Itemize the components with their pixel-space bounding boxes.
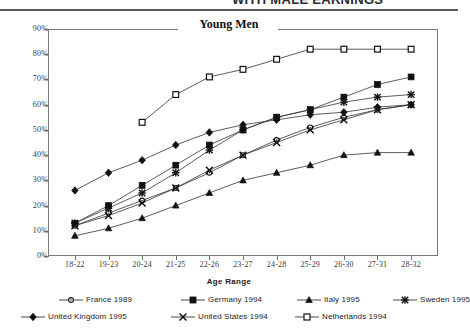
- data-point-open-square: [173, 92, 179, 98]
- data-point-filled-square: [190, 297, 196, 303]
- data-point-filled-diamond: [105, 169, 112, 177]
- legend-marker-asterisk-icon: [392, 294, 418, 306]
- legend-row: United Kingdom 1995United States 1994Net…: [10, 309, 458, 324]
- data-point-open-circle: [69, 297, 74, 302]
- data-point-filled-square: [139, 182, 145, 188]
- legend-label: United States 1994: [198, 311, 268, 323]
- chart-title: Young Men: [0, 17, 458, 32]
- data-point-asterisk: [374, 93, 382, 101]
- legend-marker-filled-square-icon: [180, 294, 206, 306]
- data-point-open-square: [206, 74, 212, 80]
- data-point-open-square: [304, 314, 310, 320]
- data-point-filled-diamond: [139, 156, 146, 164]
- legend-label: Germany 1994: [208, 294, 262, 306]
- data-point-filled-diamond: [172, 141, 179, 149]
- legend-label: France 1989: [86, 294, 132, 306]
- legend-marker-cross-x-icon: [170, 311, 196, 323]
- legend-marker-filled-diamond-icon: [20, 311, 46, 323]
- data-point-asterisk: [206, 146, 214, 154]
- data-point-filled-diamond: [30, 313, 37, 321]
- data-point-filled-triangle: [374, 149, 381, 155]
- legend-row: France 1989Germany 1994Italy 1995Sweden …: [10, 292, 458, 307]
- data-point-filled-diamond: [341, 108, 348, 116]
- series-germany-1994: [72, 74, 414, 226]
- data-point-asterisk: [138, 189, 146, 197]
- data-point-asterisk: [407, 91, 415, 99]
- legend-item-germany-1994[interactable]: Germany 1994: [180, 292, 262, 307]
- data-point-asterisk: [340, 98, 348, 106]
- data-point-open-square: [307, 46, 313, 52]
- data-point-filled-square: [375, 82, 381, 88]
- data-point-open-square: [375, 46, 381, 52]
- series-italy-1995: [72, 149, 415, 238]
- legend-label: Sweden 1995: [420, 294, 470, 306]
- legend-item-united-kingdom-1995[interactable]: United Kingdom 1995: [20, 309, 127, 324]
- data-point-open-square: [274, 56, 280, 62]
- legend-label: Italy 1995: [324, 294, 360, 306]
- legend-marker-filled-triangle-icon: [296, 294, 322, 306]
- data-point-filled-diamond: [206, 129, 213, 137]
- chart-legend: France 1989Germany 1994Italy 1995Sweden …: [10, 292, 458, 328]
- legend-item-france-1989[interactable]: France 1989: [58, 292, 132, 307]
- legend-label: Netherlands 1994: [322, 311, 387, 323]
- data-point-filled-triangle: [408, 149, 415, 155]
- legend-item-sweden-1995[interactable]: Sweden 1995: [392, 292, 470, 307]
- data-point-filled-square: [408, 74, 414, 80]
- data-point-filled-triangle: [206, 189, 213, 195]
- legend-item-netherlands-1994[interactable]: Netherlands 1994: [294, 309, 387, 324]
- x-axis-title: Age Range: [0, 277, 458, 286]
- data-point-filled-triangle: [306, 296, 313, 302]
- series-netherlands-1994: [139, 46, 414, 125]
- data-point-filled-diamond: [72, 187, 79, 195]
- data-point-open-square: [341, 46, 347, 52]
- legend-item-united-states-1994[interactable]: United States 1994: [170, 309, 268, 324]
- legend-marker-open-circle-icon: [58, 294, 84, 306]
- series-united-states-1994: [71, 101, 414, 229]
- data-point-open-square: [240, 66, 246, 72]
- data-point-filled-square: [173, 162, 179, 168]
- legend-label: United Kingdom 1995: [48, 311, 127, 323]
- data-point-open-square: [408, 46, 414, 52]
- legend-marker-open-square-icon: [294, 311, 320, 323]
- series-sweden-1995: [71, 91, 415, 227]
- data-point-open-square: [139, 119, 145, 125]
- data-point-asterisk: [105, 204, 113, 212]
- data-point-asterisk: [172, 169, 180, 177]
- legend-item-italy-1995[interactable]: Italy 1995: [296, 292, 360, 307]
- data-point-asterisk: [401, 296, 409, 304]
